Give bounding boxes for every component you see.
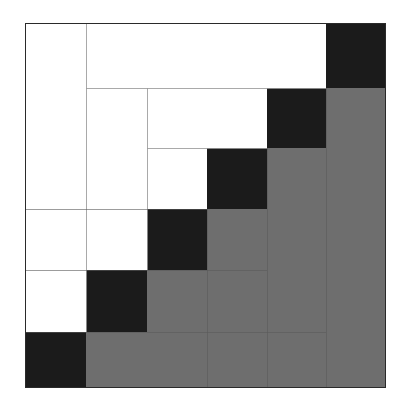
matrix-cell-r3-c6 (326, 148, 386, 209)
matrix-cell-r4-c6 (326, 209, 386, 270)
matrix-cell-r5-c2 (86, 270, 147, 332)
matrix-cell-r5-c1 (25, 270, 86, 332)
block-matrix-plot (25, 23, 386, 388)
matrix-cell-r2-c6 (326, 88, 386, 148)
matrix-cell-r4-c5 (267, 209, 326, 270)
gridline-vertical-3 (207, 209, 208, 388)
matrix-cell-r3-c4 (207, 148, 267, 209)
matrix-cell-r1-c3 (147, 23, 207, 88)
gridline-horizontal-2 (147, 148, 267, 149)
matrix-cell-r6-c2 (86, 332, 147, 388)
matrix-cell-r1-c6 (326, 23, 386, 88)
gridline-vertical-2 (147, 88, 148, 270)
gridline-horizontal-3 (25, 209, 207, 210)
matrix-cell-r6-c3 (147, 332, 207, 388)
gridline-vertical-1 (86, 23, 87, 332)
matrix-cell-r6-c5 (267, 332, 326, 388)
matrix-cell-r4-c2 (86, 209, 147, 270)
gridline-vertical-5 (326, 88, 327, 388)
matrix-cell-r4-c1 (25, 209, 86, 270)
matrix-cell-r1-c4 (207, 23, 267, 88)
gridline-vertical-4 (267, 148, 268, 388)
matrix-cell-r3-c2 (86, 148, 147, 209)
matrix-cell-r6-c4 (207, 332, 267, 388)
matrix-cell-r3-c1 (25, 148, 86, 209)
gridline-horizontal-4 (25, 270, 267, 271)
matrix-cell-r2-c3 (147, 88, 207, 148)
matrix-cell-r1-c1 (25, 23, 86, 88)
matrix-cell-r3-c5 (267, 148, 326, 209)
figure-canvas (0, 0, 404, 411)
matrix-cell-r3-c3 (147, 148, 207, 209)
matrix-cell-r1-c2 (86, 23, 147, 88)
gridline-horizontal-1 (86, 88, 326, 89)
matrix-cell-r2-c1 (25, 88, 86, 148)
matrix-cell-r4-c4 (207, 209, 267, 270)
matrix-cell-r5-c6 (326, 270, 386, 332)
matrix-cell-r2-c4 (207, 88, 267, 148)
matrix-cell-r1-c5 (267, 23, 326, 88)
matrix-cell-r6-c1 (25, 332, 86, 388)
matrix-cell-r2-c2 (86, 88, 147, 148)
matrix-cell-r2-c5 (267, 88, 326, 148)
matrix-cell-r5-c3 (147, 270, 207, 332)
gridline-horizontal-5 (25, 332, 326, 333)
matrix-cell-r6-c6 (326, 332, 386, 388)
matrix-cell-r4-c3 (147, 209, 207, 270)
matrix-cell-r5-c5 (267, 270, 326, 332)
matrix-cell-r5-c4 (207, 270, 267, 332)
